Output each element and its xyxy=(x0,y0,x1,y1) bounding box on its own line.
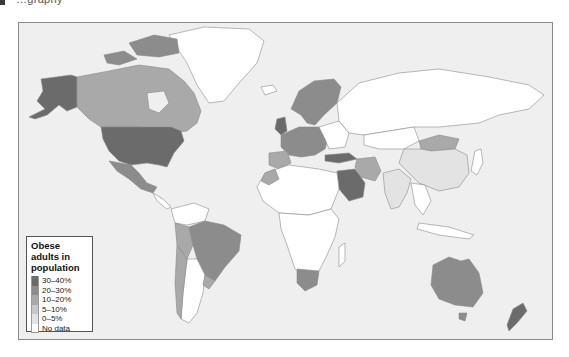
legend-label: 0–5% xyxy=(42,314,62,323)
legend-label: 5–10% xyxy=(42,305,67,314)
legend-title: Obese adults in population xyxy=(31,240,88,273)
region-mongolia xyxy=(419,135,459,151)
legend-swatch-30-40 xyxy=(31,276,39,286)
region-central-africa xyxy=(279,209,339,277)
region-usa xyxy=(101,127,184,167)
region-south-africa xyxy=(297,269,319,291)
legend-item: No data xyxy=(31,324,88,334)
region-canada xyxy=(77,65,201,133)
region-mexico xyxy=(109,161,157,193)
region-new-zealand xyxy=(507,303,527,331)
region-tasmania xyxy=(459,313,467,321)
legend-label: 10–20% xyxy=(42,295,71,304)
region-scandinavia xyxy=(291,79,341,125)
region-arctic-islands-2 xyxy=(104,51,137,65)
region-indonesia xyxy=(417,223,474,239)
region-india xyxy=(383,169,411,209)
region-japan xyxy=(471,149,483,175)
legend-item: 5–10% xyxy=(31,305,88,315)
legend-swatch-0-5 xyxy=(31,314,39,324)
legend-item: 10–20% xyxy=(31,295,88,305)
legend-item: 30–40% xyxy=(31,276,88,286)
legend-label: No data xyxy=(42,324,70,333)
region-arctic-islands xyxy=(129,35,179,57)
region-southeast-asia xyxy=(411,183,431,215)
region-alaska xyxy=(29,75,77,119)
region-central-america xyxy=(153,193,171,209)
region-turkey xyxy=(325,153,357,163)
legend-swatch-20-30 xyxy=(31,286,39,296)
legend-label: 20–30% xyxy=(42,286,71,295)
legend-swatch-5-10 xyxy=(31,305,39,315)
region-uk xyxy=(275,117,287,135)
legend-swatch-no-data xyxy=(31,324,39,334)
region-australia xyxy=(431,257,483,307)
region-madagascar xyxy=(339,243,345,267)
map-legend: Obese adults in population 30–40% 20–30%… xyxy=(26,236,93,332)
region-iceland xyxy=(261,85,277,95)
world-map xyxy=(18,22,553,340)
legend-label: 30–40% xyxy=(42,276,71,285)
header-text: …graphy xyxy=(16,0,63,5)
legend-item: 20–30% xyxy=(31,286,88,296)
legend-swatch-10-20 xyxy=(31,295,39,305)
world-map-svg xyxy=(19,23,553,340)
region-russia xyxy=(337,69,544,135)
header-bar-marker xyxy=(0,0,5,5)
legend-item: 0–5% xyxy=(31,314,88,324)
